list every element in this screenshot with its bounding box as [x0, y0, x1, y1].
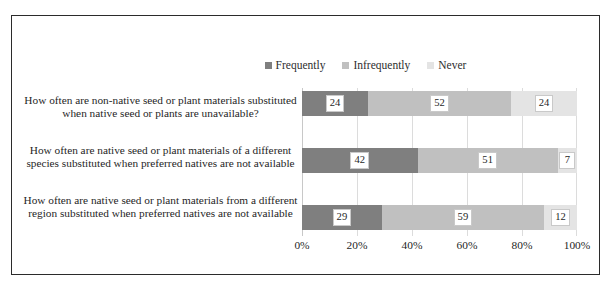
- x-tick-20: 20%: [347, 240, 368, 251]
- bar-value-label: 52: [430, 95, 449, 113]
- bar-segment-infrequently[interactable]: 51: [418, 148, 558, 173]
- x-axis: 0% 20% 40% 60% 80% 100%: [302, 240, 577, 260]
- bar-segment-infrequently[interactable]: 52: [368, 91, 511, 116]
- x-tick-0: 0%: [294, 240, 309, 251]
- bar-value-label: 42: [350, 152, 369, 170]
- x-tick-100: 100%: [564, 240, 591, 251]
- category-label-3-line1: How often are native seed or plant mater…: [20, 194, 301, 207]
- x-tick-60: 60%: [457, 240, 478, 251]
- bar-value-label: 24: [535, 95, 554, 113]
- bar-segment-never[interactable]: 7: [558, 148, 577, 173]
- plot-area: 245224 42517 295912: [302, 88, 577, 236]
- x-tick-40: 40%: [402, 240, 423, 251]
- bar-segment-infrequently[interactable]: 59: [382, 205, 544, 230]
- bar-segment-frequently[interactable]: 24: [302, 91, 368, 116]
- bar-value-label: 29: [333, 209, 352, 227]
- category-label-3: How often are native seed or plant mater…: [20, 194, 301, 221]
- category-label-3-line2: region substituted when preferred native…: [20, 207, 301, 220]
- bar-value-label: 7: [559, 152, 575, 170]
- bar-segment-never[interactable]: 12: [544, 205, 577, 230]
- bar-value-label: 51: [478, 152, 497, 170]
- category-label-2-line1: How often are native seed or plant mater…: [20, 144, 301, 157]
- bar-row-3[interactable]: 295912: [302, 205, 577, 230]
- plot-wrapper: How often are non-native seed or plant m…: [12, 16, 599, 274]
- category-label-1-line2: when native seed or plants are unavailab…: [20, 107, 301, 120]
- bar-row-1[interactable]: 245224: [302, 91, 577, 116]
- x-tick-80: 80%: [512, 240, 533, 251]
- bar-value-label: 24: [326, 95, 345, 113]
- category-label-2: How often are native seed or plant mater…: [20, 144, 301, 171]
- category-label-1-line1: How often are non-native seed or plant m…: [20, 94, 301, 107]
- bar-segment-frequently[interactable]: 42: [302, 148, 418, 173]
- bar-value-label: 12: [551, 209, 570, 227]
- category-label-1: How often are non-native seed or plant m…: [20, 94, 301, 121]
- category-axis: How often are non-native seed or plant m…: [20, 88, 301, 236]
- bar-segment-frequently[interactable]: 29: [302, 205, 382, 230]
- chart-frame: Frequently Infrequently Never How often …: [11, 15, 600, 275]
- bar-value-label: 59: [454, 209, 473, 227]
- bar-row-2[interactable]: 42517: [302, 148, 577, 173]
- bar-segment-never[interactable]: 24: [511, 91, 577, 116]
- category-label-2-line2: species substituted when preferred nativ…: [20, 157, 301, 170]
